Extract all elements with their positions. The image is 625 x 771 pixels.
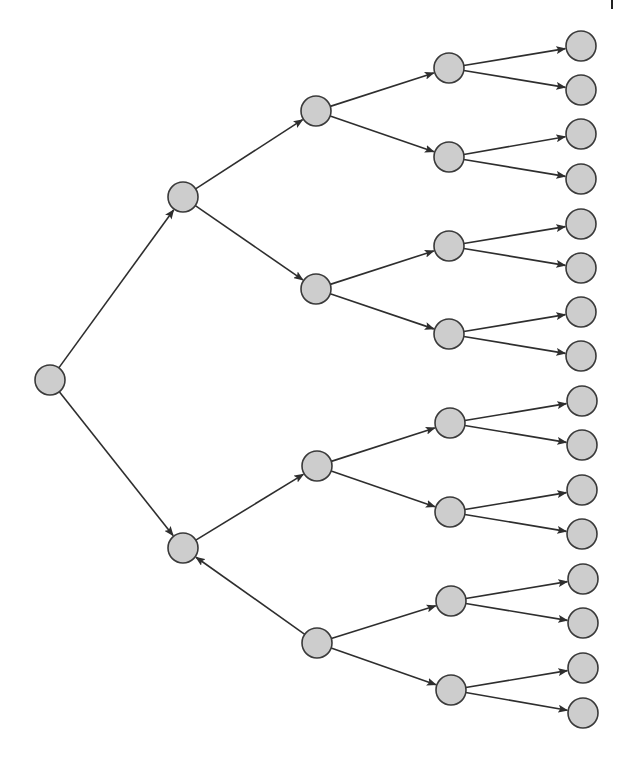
edge-n3-n7 (330, 73, 434, 106)
edge-n3-n8 (330, 116, 434, 152)
edge-n6-n2 (196, 557, 305, 634)
tree-node-n14 (436, 675, 466, 705)
edge-n1-n4 (195, 206, 303, 280)
tree-node-n20 (566, 253, 596, 283)
edge-n7-n15 (464, 49, 565, 66)
tree-node-n15 (566, 31, 596, 61)
tree-node-n6 (302, 628, 332, 658)
tree-node-n18 (566, 164, 596, 194)
tree-node-n25 (567, 475, 597, 505)
tree-node-n22 (566, 341, 596, 371)
edge-n12-n26 (465, 514, 566, 531)
edge-n1-n3 (196, 120, 303, 189)
edge-n5-n11 (331, 428, 435, 461)
tree-node-n4 (301, 274, 331, 304)
tree-node-n2 (168, 533, 198, 563)
edge-n2-n5 (196, 474, 304, 540)
tree-node-n28 (568, 608, 598, 638)
edge-n13-n27 (466, 582, 567, 599)
tree-node-n17 (566, 119, 596, 149)
edge-n4-n10 (330, 294, 434, 329)
tree-node-n7 (434, 53, 464, 83)
edge-n10-n21 (464, 315, 565, 332)
tree-node-n10 (434, 319, 464, 349)
edge-n4-n9 (330, 251, 434, 284)
tree-node-n26 (567, 519, 597, 549)
edge-n10-n22 (464, 336, 565, 353)
edge-n11-n24 (465, 425, 566, 442)
edge-n13-n28 (466, 603, 567, 620)
binary-tree-diagram (0, 0, 625, 771)
tree-node-n29 (568, 653, 598, 683)
tree-node-n23 (567, 386, 597, 416)
edge-n6-n13 (331, 606, 435, 639)
tree-node-n24 (567, 430, 597, 460)
edge-n8-n17 (464, 137, 565, 155)
tree-node-n5 (302, 451, 332, 481)
tree-node-n12 (435, 497, 465, 527)
edge-n9-n19 (464, 227, 565, 244)
tree-node-n19 (566, 209, 596, 239)
tree-node-n13 (436, 586, 466, 616)
tree-node-n0 (35, 365, 65, 395)
edge-n7-n16 (464, 70, 565, 87)
edge-n0-n2 (59, 392, 173, 536)
tree-node-n27 (568, 564, 598, 594)
edge-n14-n29 (466, 671, 567, 688)
tree-node-n8 (434, 142, 464, 172)
edge-n11-n23 (465, 404, 566, 421)
tree-node-n30 (568, 698, 598, 728)
edge-n8-n18 (464, 159, 565, 176)
edge-n12-n25 (465, 493, 566, 510)
edge-layer (59, 49, 567, 711)
tree-node-n11 (435, 408, 465, 438)
tree-node-n21 (566, 297, 596, 327)
edge-n5-n12 (331, 471, 435, 507)
edge-n0-n1 (59, 210, 174, 368)
edge-n14-n30 (466, 693, 567, 711)
tree-node-n3 (301, 96, 331, 126)
edge-n6-n14 (331, 648, 436, 685)
edge-n9-n20 (464, 248, 565, 265)
tree-node-n16 (566, 75, 596, 105)
tree-node-n1 (168, 182, 198, 212)
tree-node-n9 (434, 231, 464, 261)
node-layer (35, 31, 598, 728)
